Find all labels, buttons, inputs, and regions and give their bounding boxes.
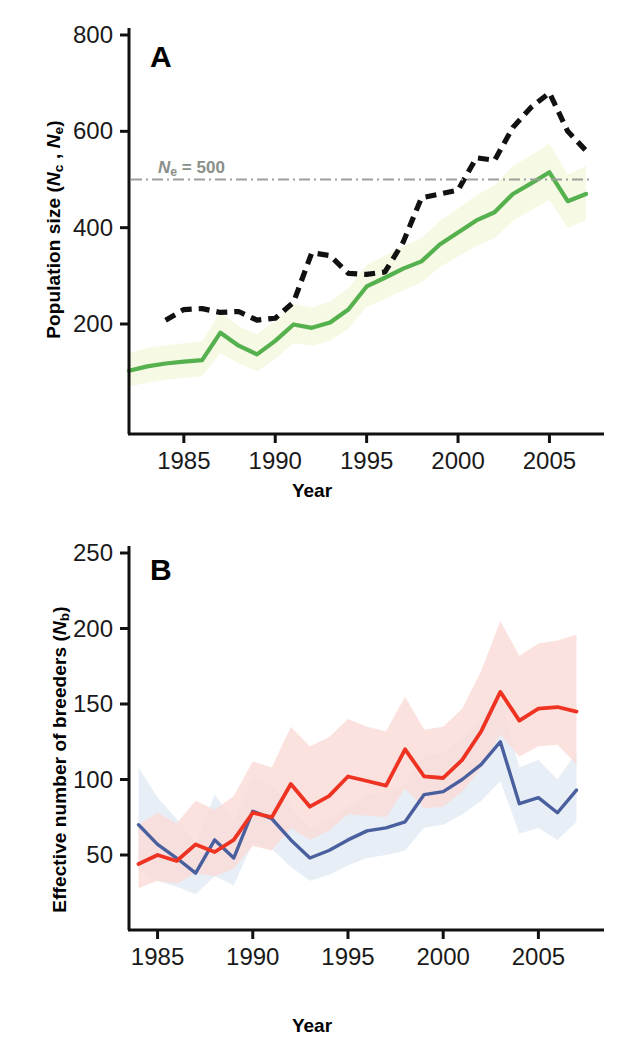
panel-b: 2502001501005019851990199520002005 B Eff… — [0, 520, 624, 1055]
reference-label-value: = 500 — [177, 158, 225, 177]
panel-b-y-tick-label: 250 — [73, 539, 113, 566]
y-axis-subscript-c: c — [51, 164, 66, 172]
panel-a-y-tick-label: 200 — [73, 310, 113, 337]
panel-b-x-tick-label: 1985 — [131, 943, 184, 970]
y-axis-symbol-nc: N — [43, 172, 64, 186]
y-axis-b-symbol-nb: N — [49, 621, 70, 635]
panel-b-x-tick-label: 2005 — [512, 943, 565, 970]
panel-a: 80060040020019851990199520002005 A Popul… — [0, 0, 624, 520]
panel-b-plot: 2502001501005019851990199520002005 — [0, 520, 624, 1055]
y-axis-subscript-e: e — [51, 127, 66, 135]
reference-line-label: Ne = 500 — [158, 158, 225, 179]
y-axis-b-subscript-b: b — [57, 613, 72, 621]
panel-a-y-axis-title: Population size (Nc , Ne) — [43, 80, 66, 380]
panel-b-x-axis-title: Year — [0, 1015, 624, 1037]
panel-b-x-tick-label: 1990 — [226, 943, 279, 970]
panel-a-series-group — [129, 93, 586, 371]
panel-a-x-tick-label: 1995 — [340, 447, 393, 474]
panel-a-y-tick-label: 800 — [73, 21, 113, 48]
panel-b-x-tick-label: 1995 — [321, 943, 374, 970]
panel-a-x-tick-label: 2005 — [523, 447, 576, 474]
panel-a-plot: 80060040020019851990199520002005 — [0, 0, 624, 520]
panel-b-y-tick-label: 200 — [73, 615, 113, 642]
panel-b-x-tick-label: 2000 — [416, 943, 469, 970]
y-axis-b-title-close: ) — [49, 606, 70, 612]
panel-b-y-tick-label: 100 — [73, 766, 113, 793]
y-axis-b-title-text: Effective number of breeders ( — [49, 635, 70, 913]
reference-label-symbol: N — [158, 158, 170, 177]
panel-b-y-axis-title: Effective number of breeders (Nb) — [49, 560, 72, 960]
y-axis-title-text: Population size ( — [43, 186, 64, 339]
panel-a-x-tick-label: 1990 — [249, 447, 302, 474]
figure-root: 80060040020019851990199520002005 A Popul… — [0, 0, 624, 1055]
panel-a-x-tick-label: 2000 — [431, 447, 484, 474]
panel-b-y-tick-label: 50 — [86, 841, 113, 868]
panel-a-axes: 80060040020019851990199520002005 — [73, 21, 604, 474]
y-axis-title-close: ) — [43, 120, 64, 126]
panel-b-y-tick-label: 150 — [73, 690, 113, 717]
panel-a-y-tick-label: 600 — [73, 117, 113, 144]
y-axis-symbol-ne: N — [43, 135, 64, 149]
panel-a-y-tick-label: 400 — [73, 214, 113, 241]
panel-b-letter: B — [150, 553, 172, 587]
panel-a-x-axis-title: Year — [0, 480, 624, 502]
panel-a-x-tick-label: 1985 — [157, 447, 210, 474]
y-axis-title-separator: , — [43, 148, 64, 164]
panel-b-confidence-bands — [139, 621, 577, 894]
panel-a-letter: A — [150, 40, 172, 74]
